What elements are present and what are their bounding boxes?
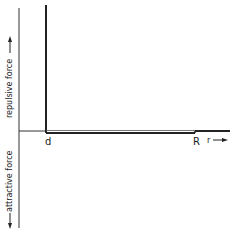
r-arrow-icon bbox=[213, 138, 228, 142]
force-diagram: d R r repulsive force attractive force bbox=[0, 0, 234, 236]
down-arrow-icon bbox=[8, 213, 12, 229]
repulsive-force-label: repulsive force bbox=[5, 59, 14, 118]
r-axis-label: r bbox=[207, 136, 211, 145]
R-marker-label: R bbox=[193, 136, 200, 147]
d-marker-label: d bbox=[45, 136, 51, 147]
up-arrow-icon bbox=[8, 36, 12, 53]
attractive-force-label: attractive force bbox=[5, 150, 14, 212]
